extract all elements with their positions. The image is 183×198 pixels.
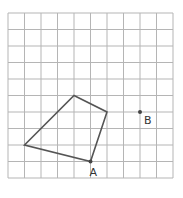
point-a <box>89 160 93 164</box>
label-b: B <box>144 114 152 127</box>
label-a: A <box>90 166 98 179</box>
point-b <box>138 110 142 114</box>
grid-diagram: A B <box>0 0 183 198</box>
grid-lines <box>8 13 173 178</box>
